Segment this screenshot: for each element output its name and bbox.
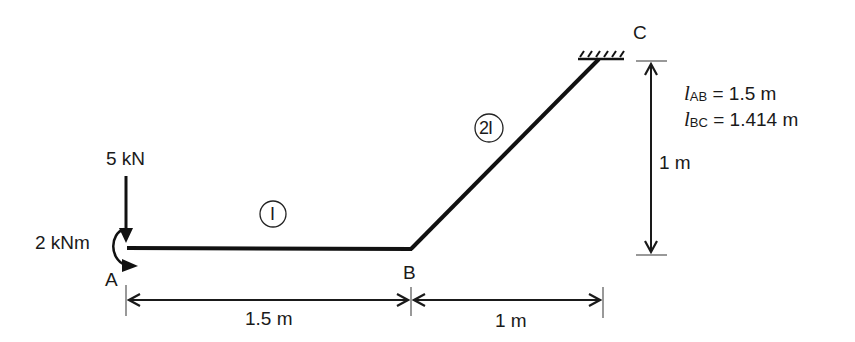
node-label-a: A: [105, 270, 118, 289]
length-ab: lAB = 1.5 m: [684, 83, 776, 104]
length-bc-sub: BC: [690, 115, 708, 130]
stiffness-label-ab: I: [270, 205, 275, 223]
length-bc: lBC = 1.414 m: [684, 109, 798, 130]
fixed-support-icon: [578, 51, 624, 59]
stiffness-label-bc: 2I: [479, 119, 492, 137]
length-ab-value: = 1.5 m: [712, 83, 776, 104]
length-ab-sub: AB: [690, 89, 707, 104]
horizontal-dimension: [126, 285, 603, 318]
point-load-label: 5 kN: [106, 149, 145, 168]
member-bc: [411, 59, 599, 249]
dimension-ab-label: 1.5 m: [245, 309, 293, 328]
member-ab: [127, 248, 412, 249]
dimension-bc-horizontal-label: 1 m: [495, 311, 527, 330]
dimension-bc-vertical-label: 1 m: [659, 153, 691, 172]
moment-label: 2 kNm: [35, 233, 90, 252]
node-label-b: B: [403, 263, 416, 282]
length-bc-value: = 1.414 m: [713, 109, 798, 130]
point-load-arrow-icon: [119, 176, 133, 243]
node-label-c: C: [633, 23, 647, 42]
frame-drawing: [0, 0, 855, 342]
